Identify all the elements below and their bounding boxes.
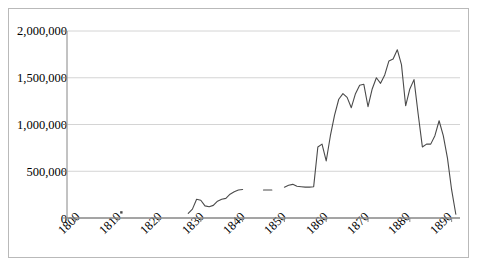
axis-ticks <box>63 31 452 222</box>
plot-area <box>0 0 477 274</box>
series-line-segment-3 <box>284 50 455 215</box>
data-series <box>120 50 456 215</box>
chart-figure: 2,000,000 1,500,000 1,000,000 500,000 0 … <box>0 0 477 274</box>
data-point <box>120 211 122 213</box>
series-line-segment-1 <box>188 189 242 213</box>
